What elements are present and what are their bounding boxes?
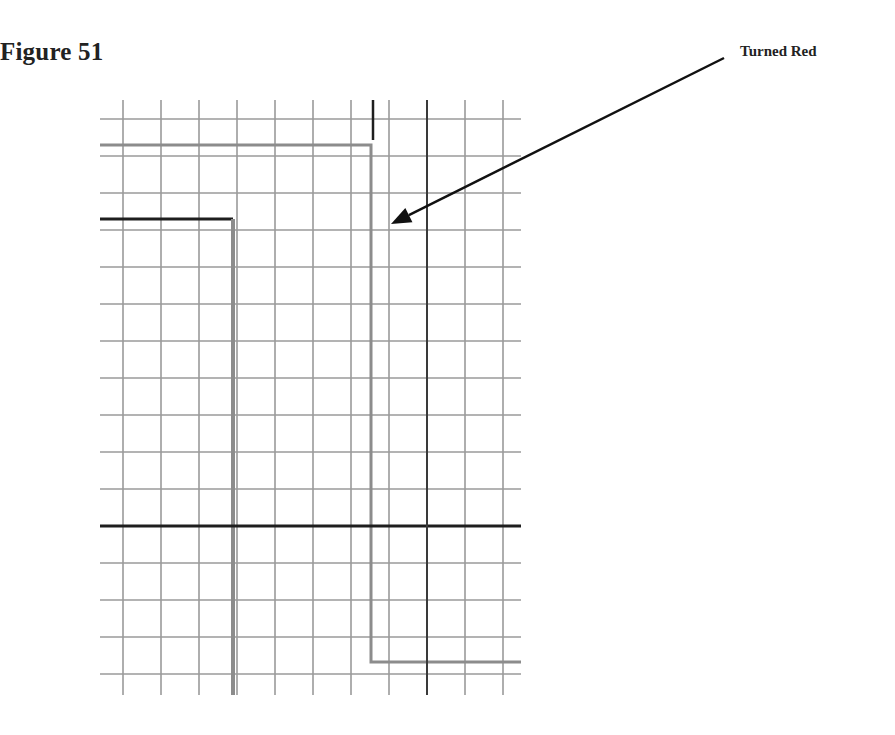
upper-gray-trace (100, 145, 521, 662)
annotation-arrow (391, 58, 724, 224)
arrow-head-icon (391, 208, 412, 224)
grid-lines (100, 100, 521, 695)
arrow-shaft (409, 58, 724, 215)
circuit-trace-diagram (0, 0, 895, 735)
signal-traces (100, 100, 521, 695)
